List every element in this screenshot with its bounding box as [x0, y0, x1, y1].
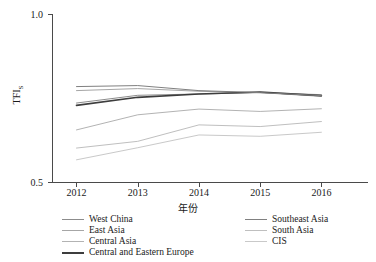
legend-label-east-asia: East Asia — [89, 225, 125, 236]
legend-label-west-china: West China — [89, 214, 133, 225]
legend-swatch-southeast-asia — [245, 219, 267, 220]
series-line-cis — [76, 132, 321, 160]
legend-column-right: Southeast AsiaSouth AsiaCIS — [245, 214, 328, 247]
y-axis-title: TFIS — [11, 65, 25, 125]
legend-label-cis: CIS — [272, 236, 287, 247]
y-axis-title-sub: S — [17, 86, 25, 90]
chart-figure: TFIS 1.0 0.5 20122013201420152016 年份 Wes… — [0, 0, 376, 262]
x-tick-label-2015: 2015 — [240, 187, 280, 198]
series-line-central-asia — [76, 109, 321, 130]
x-tick-label-2014: 2014 — [179, 187, 219, 198]
legend-label-central-asia: Central Asia — [89, 236, 136, 247]
series-lines — [52, 14, 352, 182]
chart-legend: West ChinaEast AsiaCentral AsiaCentral a… — [0, 214, 376, 262]
legend-item-southeast-asia[interactable]: Southeast Asia — [245, 214, 328, 225]
legend-swatch-central-asia — [62, 241, 84, 242]
y-tick-label-0-5: 0.5 — [13, 177, 43, 188]
x-tick-label-2016: 2016 — [301, 187, 341, 198]
plot-area — [52, 14, 352, 182]
legend-item-central-asia[interactable]: Central Asia — [62, 236, 194, 247]
legend-swatch-east-asia — [62, 230, 84, 231]
legend-swatch-central-and-eastern-europe — [62, 252, 84, 254]
x-tick-label-2013: 2013 — [118, 187, 158, 198]
legend-column-left: West ChinaEast AsiaCentral AsiaCentral a… — [62, 214, 194, 258]
legend-swatch-south-asia — [245, 230, 267, 231]
legend-swatch-cis — [245, 241, 267, 242]
legend-label-southeast-asia: Southeast Asia — [272, 214, 328, 225]
y-axis-title-main: TFI — [11, 89, 22, 104]
legend-item-central-and-eastern-europe[interactable]: Central and Eastern Europe — [62, 247, 194, 258]
legend-item-cis[interactable]: CIS — [245, 236, 328, 247]
legend-item-east-asia[interactable]: East Asia — [62, 225, 194, 236]
x-axis-title: 年份 — [0, 200, 376, 215]
legend-item-south-asia[interactable]: South Asia — [245, 225, 328, 236]
legend-label-central-and-eastern-europe: Central and Eastern Europe — [89, 247, 194, 258]
legend-label-south-asia: South Asia — [272, 225, 313, 236]
legend-swatch-west-china — [62, 219, 84, 220]
legend-item-west-china[interactable]: West China — [62, 214, 194, 225]
x-tick-label-2012: 2012 — [56, 187, 96, 198]
y-tick-label-1-0: 1.0 — [13, 9, 43, 20]
